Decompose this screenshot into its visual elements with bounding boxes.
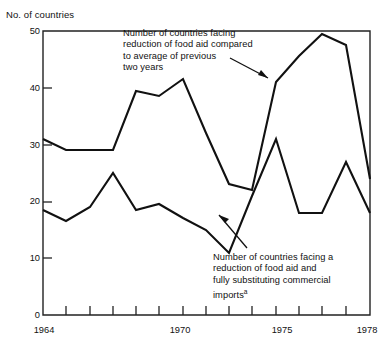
chart-root: No. of countries 50 40 30 20 10 0 1964 1…: [0, 0, 389, 353]
annotation-lower-text: Number of countries facing a reduction o…: [213, 252, 333, 300]
y-tick-marks: [43, 88, 52, 258]
annotation-upper-series: Number of countries facing reduction of …: [123, 28, 253, 74]
series-lower-line: [43, 139, 370, 253]
footnote-marker: a: [244, 288, 248, 295]
annotation-lower-series: Number of countries facing a reduction o…: [213, 252, 333, 302]
x-tick-marks: [66, 306, 346, 315]
